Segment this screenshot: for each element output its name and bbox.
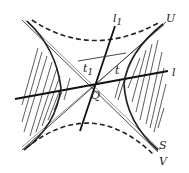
label-l: l: [172, 66, 176, 79]
label-v: V: [159, 155, 168, 168]
label-t: t: [115, 64, 120, 77]
hatching-left: [22, 48, 70, 136]
label-q: Q: [91, 89, 100, 102]
tangent-t1: [78, 53, 126, 61]
label-l1: l1: [113, 12, 122, 27]
diameter-l1: [80, 26, 115, 131]
label-s: S: [159, 139, 167, 152]
label-t1: t1: [83, 62, 93, 77]
conjugate-top-branch: [32, 20, 160, 41]
label-u: U: [166, 12, 176, 25]
hyperbola-diagram: U S V l l1 t1 t Q: [0, 0, 189, 173]
